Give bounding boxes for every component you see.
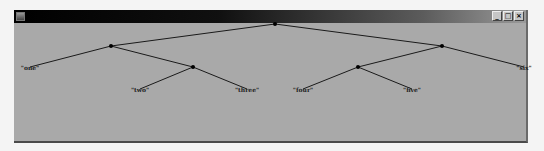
leaf-label: "four" (293, 86, 313, 93)
tree-edges (30, 24, 524, 89)
tree-edge (111, 24, 275, 46)
leaf-label: "five" (403, 86, 421, 93)
tree-leaves: "one""two""three""four""five""six" (21, 64, 532, 93)
leaf-label: "three" (235, 86, 259, 93)
tree-edge (111, 46, 193, 67)
tree-node (356, 65, 360, 69)
tree-edge (358, 46, 442, 67)
tree-edge (275, 24, 442, 46)
tree-node (440, 44, 444, 48)
tree-canvas: "one""two""three""four""five""six" (0, 0, 544, 151)
leaf-label: "six" (516, 64, 532, 71)
tree-node (273, 22, 277, 26)
tree-node (109, 44, 113, 48)
tree-edge (442, 46, 524, 67)
tree-nodes (109, 22, 444, 69)
leaf-label: "two" (131, 86, 149, 93)
tree-edge (30, 46, 111, 67)
leaf-label: "one" (21, 64, 39, 71)
tree-node (191, 65, 195, 69)
